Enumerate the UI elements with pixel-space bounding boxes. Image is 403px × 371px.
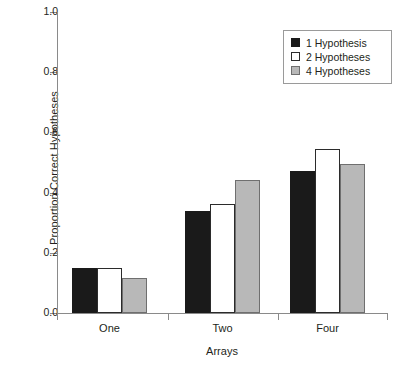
y-axis-tick-label: 0.2 — [14, 246, 58, 258]
legend-item: 1 Hypothesis — [291, 36, 384, 49]
y-axis-tick-label: 0.0 — [14, 306, 58, 318]
x-axis-tick-mark — [387, 313, 388, 320]
legend-item: 2 Hypotheses — [291, 50, 384, 63]
x-axis-line — [57, 313, 387, 314]
legend-item-label: 1 Hypothesis — [306, 37, 367, 49]
y-axis-tick: 0.2 — [0, 253, 58, 254]
y-axis-tick-label: 0.6 — [14, 125, 58, 137]
y-axis-tick: 1.0 — [0, 12, 58, 13]
x-axis-category-label: One — [70, 322, 150, 334]
bar — [185, 211, 210, 313]
x-axis-tick-mark — [168, 313, 169, 320]
x-axis-tick-mark — [278, 313, 279, 320]
y-axis-tick-label: 0.8 — [14, 65, 58, 77]
legend-item: 4 Hypotheses — [291, 64, 384, 77]
x-axis-category-label: Four — [288, 322, 368, 334]
bar-chart-figure: Proportion Correct Hypotheses 0.00.20.40… — [0, 0, 403, 371]
legend-item-label: 2 Hypotheses — [306, 51, 370, 63]
x-axis-tick-mark — [57, 313, 58, 320]
y-axis-tick: 0.0 — [0, 313, 58, 314]
legend: 1 Hypothesis2 Hypotheses4 Hypotheses — [283, 30, 392, 84]
bar — [97, 268, 122, 313]
bar — [72, 268, 97, 313]
y-axis-tick-label: 0.4 — [14, 186, 58, 198]
y-axis-tick: 0.6 — [0, 132, 58, 133]
bar — [122, 278, 147, 313]
bar — [340, 164, 365, 313]
bar — [315, 149, 340, 313]
legend-swatch-icon — [291, 38, 300, 47]
x-axis-title: Arrays — [57, 345, 387, 357]
bar — [210, 204, 235, 313]
y-axis-tick: 0.8 — [0, 72, 58, 73]
legend-item-label: 4 Hypotheses — [306, 65, 370, 77]
legend-swatch-icon — [291, 66, 300, 75]
legend-swatch-icon — [291, 52, 300, 61]
y-axis-tick-label: 1.0 — [14, 5, 58, 17]
bar — [290, 171, 315, 313]
bar — [235, 180, 260, 313]
x-axis-category-label: Two — [183, 322, 263, 334]
y-axis-tick: 0.4 — [0, 193, 58, 194]
